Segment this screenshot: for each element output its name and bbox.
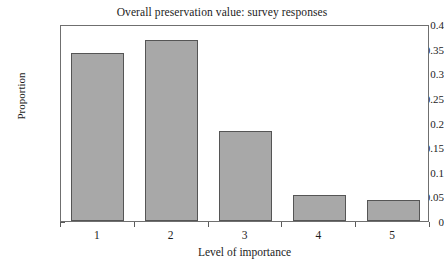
x-tick-label: 2 <box>151 229 191 241</box>
bar[interactable] <box>145 40 198 221</box>
bar-slot <box>356 26 430 221</box>
bar[interactable] <box>219 131 272 221</box>
bar-chart-figure: Overall preservation value: survey respo… <box>0 0 444 270</box>
bar[interactable] <box>71 53 124 221</box>
x-tick-label: 3 <box>225 229 265 241</box>
bar-slot <box>282 26 356 221</box>
chart-title: Overall preservation value: survey respo… <box>0 6 444 18</box>
x-tick-mark <box>60 222 61 227</box>
y-axis-title: Proportion <box>15 46 27 146</box>
x-tick-mark <box>208 222 209 227</box>
x-tick-label: 4 <box>298 229 338 241</box>
x-tick-mark <box>134 222 135 227</box>
x-axis-title: Level of importance <box>60 246 429 258</box>
bar-slot <box>135 26 209 221</box>
x-tick-mark <box>429 222 430 227</box>
bar-slot <box>209 26 283 221</box>
bars-layer <box>61 26 428 221</box>
x-tick-mark <box>281 222 282 227</box>
bar-slot <box>61 26 135 221</box>
x-tick-mark <box>355 222 356 227</box>
plot-area <box>60 25 429 222</box>
x-tick-label: 5 <box>372 229 412 241</box>
bar[interactable] <box>293 195 346 221</box>
bar[interactable] <box>367 200 420 221</box>
x-tick-label: 1 <box>77 229 117 241</box>
